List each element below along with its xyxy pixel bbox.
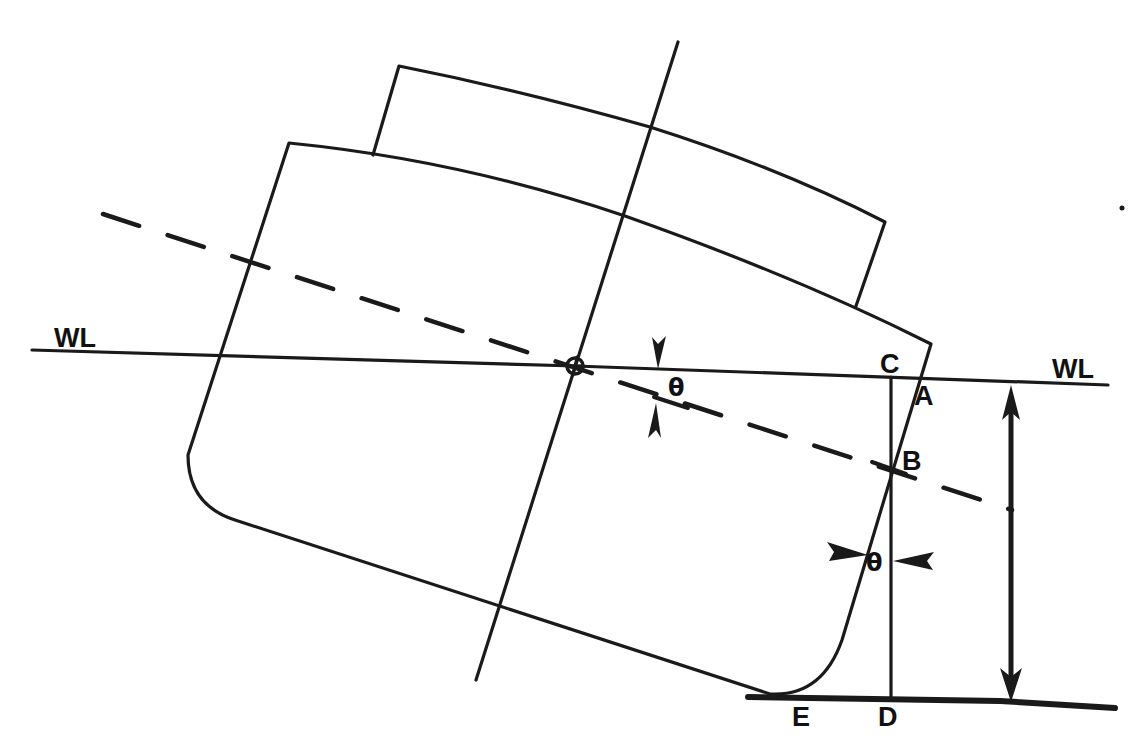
label-point-d: D — [878, 702, 898, 732]
label-point-a: A — [914, 381, 934, 411]
label-wl-left: WL — [54, 323, 96, 353]
label-wl-right: WL — [1052, 354, 1094, 384]
pivot-marker — [566, 357, 584, 375]
label-point-e: E — [792, 702, 810, 732]
label-point-c: C — [880, 349, 900, 379]
theta-arrow-right-icon — [893, 552, 934, 570]
heeled-waterline — [103, 214, 1012, 510]
draft-arrow — [1000, 385, 1022, 702]
stray-dot — [1120, 206, 1125, 211]
label-theta-top: θ — [668, 374, 685, 402]
theta-arrow-left-icon — [827, 542, 868, 561]
theta-arrow-top-icon — [652, 336, 666, 369]
label-theta-bottom: θ — [866, 549, 883, 577]
label-point-b: B — [902, 446, 922, 476]
superstructure-outline — [373, 66, 885, 306]
heeled-ship-diagram: WL WL C A B D E θ θ — [0, 0, 1147, 753]
theta-arrow-bottom-icon — [648, 403, 661, 438]
